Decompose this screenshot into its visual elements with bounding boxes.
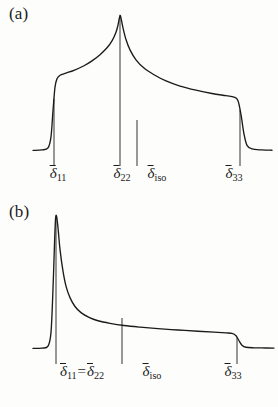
panel-b: (b) δ11=δ22 δiso δ33 xyxy=(0,200,278,407)
tick-label-delta-iso: δiso xyxy=(143,364,162,381)
panel-a-axis-labels: δ11 δ22 δiso δ33 xyxy=(0,166,278,196)
panel-a: (a) δ11 δ22 δiso δ33 xyxy=(0,0,278,204)
powder-pattern-curve xyxy=(33,15,272,150)
tick-label-delta-11-eq-delta-22: δ11=δ22 xyxy=(60,364,104,381)
panel-b-axis-labels: δ11=δ22 δiso δ33 xyxy=(0,364,278,394)
powder-pattern-curve xyxy=(33,215,274,348)
tick-label-delta-11: δ11 xyxy=(50,166,67,183)
tick-label-delta-22: δ22 xyxy=(114,166,131,183)
tick-label-delta-33: δ33 xyxy=(226,166,243,183)
csa-powder-pattern-figure: (a) δ11 δ22 δiso δ33 (b) δ11=δ22 δiso δ3… xyxy=(0,0,278,407)
tick-label-delta-iso: δiso xyxy=(148,166,167,183)
tick-label-delta-33: δ33 xyxy=(225,364,242,381)
